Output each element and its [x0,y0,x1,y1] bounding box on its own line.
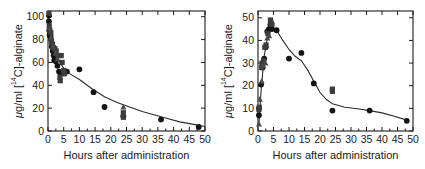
plot-frame [48,11,205,131]
data-point-square [60,60,65,65]
y-axis-title: μg/ml [14C]-alginate [220,24,235,119]
data-point-square [58,78,63,83]
data-point-square [269,22,274,27]
data-point-square [121,115,126,120]
x-tick-label: 30 [345,133,357,145]
x-tick-label: 15 [299,133,311,145]
y-tick-label: 100 [26,10,44,22]
plot-svg-left: 05101520253035404550020406080100Hours af… [0,0,212,169]
x-tick-label: 45 [183,133,195,145]
figure-container: 05101520253035404550020406080100Hours af… [0,0,425,169]
data-point-circle [196,124,202,130]
x-tick-label: 25 [121,133,133,145]
y-tick-label: 80 [32,33,44,45]
svg-text:μg/ml [14C]-alginate: μg/ml [14C]-alginate [10,24,25,119]
data-point-circle [404,118,410,124]
x-tick-label: 20 [314,133,326,145]
x-tick-label: 20 [105,133,117,145]
x-tick-label: 25 [330,133,342,145]
data-point-square [257,105,262,110]
x-tick-label: 40 [376,133,388,145]
x-tick-label: 5 [271,133,277,145]
y-tick-label: 30 [242,57,254,69]
data-point-circle [286,56,292,62]
x-tick-label: 15 [89,133,101,145]
chart-panel-right: 0510152025303540455001020304050Hours aft… [212,0,424,169]
y-tick-label: 40 [32,79,44,91]
data-point-circle [311,81,317,87]
data-point-square [121,110,126,115]
x-tick-label: 5 [61,133,67,145]
data-point-circle [274,27,280,33]
y-tick-label: 50 [242,11,254,23]
y-axis-title: μg/ml [14C]-alginate [10,24,25,119]
data-point-circle [55,63,61,69]
x-tick-label: 45 [392,133,404,145]
svg-text:μg/ml [14C]-alginate: μg/ml [14C]-alginate [220,24,235,119]
data-point-circle [102,104,108,110]
fit-curve [49,18,205,127]
data-point-circle [256,112,262,118]
x-tick-label: 30 [136,133,148,145]
x-tick-label: 35 [361,133,373,145]
y-tick-label: 60 [32,56,44,68]
data-point-triangle [256,121,262,127]
y-tick-label: 0 [248,125,254,137]
x-tick-label: 10 [283,133,295,145]
x-axis-title: Hours after administration [273,149,399,161]
x-tick-label: 50 [199,133,211,145]
data-point-triangle [259,78,265,84]
x-tick-label: 40 [168,133,180,145]
x-tick-label: 35 [152,133,164,145]
data-point-circle [299,50,305,56]
plot-frame [258,11,413,131]
chart-panel-left: 05101520253035404550020406080100Hours af… [0,0,212,169]
x-tick-label: 10 [74,133,86,145]
y-tick-label: 10 [242,102,254,114]
data-point-square [330,89,335,94]
data-point-square [59,53,64,58]
x-tick-label: 0 [255,133,261,145]
data-point-circle [367,108,373,114]
data-point-circle [330,108,336,114]
data-point-square [263,42,268,47]
plot-svg-right: 0510152025303540455001020304050Hours aft… [212,0,425,169]
y-tick-label: 20 [242,79,254,91]
y-tick-label: 20 [32,102,44,114]
data-point-triangle [120,104,126,110]
x-axis-title: Hours after administration [64,149,190,161]
y-tick-label: 0 [38,125,44,137]
x-tick-label: 0 [45,133,51,145]
data-point-circle [91,89,97,95]
x-tick-label: 50 [407,133,419,145]
y-tick-label: 40 [242,34,254,46]
data-point-circle [77,66,83,72]
data-point-square [48,30,53,35]
data-point-square [46,11,51,16]
data-point-circle [158,117,164,123]
